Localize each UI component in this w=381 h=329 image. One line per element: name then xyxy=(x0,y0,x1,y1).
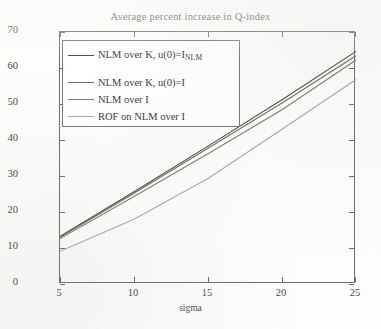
y-tick-mark xyxy=(60,284,65,285)
x-tick-mark-top xyxy=(282,32,283,37)
legend-entry-0[interactable]: NLM over K, u(0)=INLM xyxy=(68,48,202,62)
y-tick-mark-right xyxy=(349,176,354,177)
x-tick-label: 25 xyxy=(335,287,375,298)
legend-swatch-line-icon xyxy=(68,99,94,100)
y-tick-mark-right xyxy=(349,212,354,213)
y-tick-mark-right xyxy=(349,104,354,105)
legend-swatch-line-icon xyxy=(68,55,94,56)
x-tick-mark xyxy=(134,277,135,282)
x-tick-label: 10 xyxy=(113,287,153,298)
x-tick-mark-top xyxy=(208,32,209,37)
legend-entry-2[interactable]: NLM over I xyxy=(68,92,149,106)
y-tick-label: 0 xyxy=(0,276,18,287)
x-tick-mark xyxy=(355,277,356,282)
y-tick-label: 40 xyxy=(0,132,18,143)
legend-label: NLM over K, u(0)=I xyxy=(98,77,185,88)
x-axis-title: sigma xyxy=(0,303,381,313)
y-tick-label: 30 xyxy=(0,168,18,179)
x-tick-mark-top xyxy=(60,32,61,37)
legend-swatch-line-icon xyxy=(68,116,94,117)
x-tick-mark-top xyxy=(355,32,356,37)
legend-entry-3[interactable]: ROF on NLM over I xyxy=(68,109,185,123)
x-tick-mark xyxy=(282,277,283,282)
y-tick-mark xyxy=(60,212,65,213)
legend-label-subscript: NLM xyxy=(185,53,202,62)
y-tick-label: 10 xyxy=(0,240,18,251)
legend-entry-1[interactable]: NLM over K, u(0)=I xyxy=(68,75,185,89)
x-tick-mark-top xyxy=(134,32,135,37)
x-tick-mark xyxy=(208,277,209,282)
y-tick-label: 50 xyxy=(0,96,18,107)
x-tick-label: 20 xyxy=(261,287,301,298)
legend-label: ROF on NLM over I xyxy=(98,111,185,122)
legend-label: NLM over I xyxy=(98,94,149,105)
y-tick-mark xyxy=(60,140,65,141)
y-tick-label: 70 xyxy=(0,24,18,35)
chart-legend: NLM over K, u(0)=INLMNLM over K, u(0)=IN… xyxy=(62,40,240,127)
legend-label: NLM over K, u(0)=INLM xyxy=(98,49,202,62)
x-tick-mark xyxy=(60,277,61,282)
y-tick-mark-right xyxy=(349,32,354,33)
y-tick-label: 20 xyxy=(0,204,18,215)
chart-title: Average percent increase in Q-index xyxy=(0,11,381,22)
y-tick-mark-right xyxy=(349,140,354,141)
x-tick-label: 15 xyxy=(187,287,227,298)
x-tick-label: 5 xyxy=(39,287,79,298)
y-tick-label: 60 xyxy=(0,60,18,71)
legend-swatch-line-icon xyxy=(68,82,94,83)
y-tick-mark-right xyxy=(349,68,354,69)
y-tick-mark xyxy=(60,176,65,177)
y-tick-mark-right xyxy=(349,248,354,249)
figure-canvas: Average percent increase in Q-index perc… xyxy=(0,0,381,329)
y-tick-mark-right xyxy=(349,284,354,285)
y-tick-mark xyxy=(60,248,65,249)
